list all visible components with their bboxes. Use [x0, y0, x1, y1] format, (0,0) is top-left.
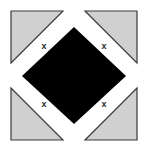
geometry-figure-svg: x x x x — [0, 0, 148, 151]
cross-mark-bottom-right: x — [101, 99, 106, 109]
cross-mark-top-left: x — [41, 41, 46, 51]
cross-mark-bottom-left: x — [41, 99, 46, 109]
cross-mark-top-right: x — [101, 41, 106, 51]
geometry-figure-canvas: x x x x — [0, 0, 148, 151]
